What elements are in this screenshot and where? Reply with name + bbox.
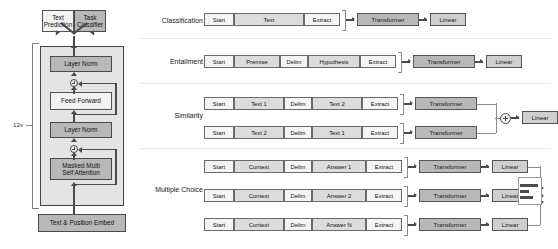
layer-norm-top: Layer Norm — [50, 56, 112, 72]
softmax-bar-1 — [520, 184, 538, 187]
token-start: Start — [204, 160, 234, 173]
seq-to-transformer-arrow — [414, 193, 417, 197]
ln-bottom-output-arrow — [71, 110, 77, 114]
token-start: Start — [204, 218, 234, 231]
section-divider-2 — [140, 83, 551, 84]
seq-to-transformer-arrow — [352, 17, 355, 21]
token-text-2: Text 2 — [234, 126, 284, 139]
token-extract: Extract — [304, 13, 340, 26]
section-label-classification: Classification — [162, 17, 203, 24]
block-output-arrow — [71, 44, 77, 48]
seq-to-transformer-arrow — [410, 130, 413, 134]
linear-block-mc-1: Linear — [492, 160, 528, 173]
text-position-embed-block: Text & Position Embed — [38, 214, 126, 232]
ff-skip-vline — [115, 83, 117, 115]
token-context: Context — [234, 218, 284, 231]
token-answer-1: Answer 1 — [312, 160, 366, 173]
section-divider-1 — [140, 38, 551, 39]
transformer-to-linear-arrow — [486, 193, 489, 197]
transformer-block-similarity-1: Transformer — [415, 97, 477, 110]
masked-multi-self-attention-block: Masked Multi Self Attention — [50, 158, 112, 180]
msa-skip-vline — [115, 149, 117, 185]
text-prediction-head-line1: Text — [52, 14, 64, 21]
seq-to-transformer-arrow — [408, 59, 411, 63]
token-delim: Delim — [284, 126, 312, 139]
token-start: Start — [204, 97, 234, 110]
transformer-block-similarity-2: Transformer — [415, 126, 477, 139]
token-text: Text — [234, 13, 304, 26]
mc-agg-line-1 — [528, 167, 540, 168]
transformer-to-linear-arrow — [480, 59, 483, 63]
msa-line2: Self Attention — [62, 169, 100, 176]
ln-bottom-input-arrow — [71, 138, 77, 142]
ff-skip-top — [80, 83, 116, 85]
token-delim: Delim — [280, 55, 308, 68]
token-answer-2: Answer 2 — [312, 189, 366, 202]
repeat-label: 12x — [13, 121, 23, 128]
softmax-bar-3 — [520, 196, 533, 199]
repeat-bracket-tick — [26, 125, 33, 126]
token-context: Context — [234, 189, 284, 202]
msa-line1: Masked Multi — [62, 162, 100, 169]
layer-norm-bottom: Layer Norm — [50, 122, 112, 138]
linear-block-mc-3: Linear — [492, 218, 528, 231]
token-hypothesis: Hypothesis — [308, 55, 360, 68]
section-label-similarity: Similarity — [175, 112, 203, 119]
token-start: Start — [204, 13, 234, 26]
task-classifier-head-line1: Task — [83, 14, 96, 21]
linear-block-similarity: Linear — [522, 111, 558, 124]
similarity-merge-top-line — [477, 104, 496, 105]
section-label-multiple-choice: Multiple Choice — [155, 186, 203, 193]
section-divider-3 — [140, 148, 551, 149]
token-start: Start — [204, 126, 234, 139]
softmax-bar-2 — [520, 190, 529, 193]
transformer-block-mc-2: Transformer — [419, 189, 481, 202]
similarity-merge-bottom-line — [477, 133, 496, 134]
transformer-to-linear-arrow — [424, 17, 427, 21]
transformer-architecture-panel: Text Prediction Task Classifier 12x Laye… — [0, 0, 140, 249]
linear-block-entailment: Linear — [486, 55, 522, 68]
transformer-block-mc-3: Transformer — [419, 218, 481, 231]
token-extract: Extract — [362, 126, 398, 139]
repeat-bracket — [32, 43, 39, 209]
msa-skip-top — [80, 149, 116, 151]
token-extract: Extract — [366, 189, 402, 202]
transformer-block-classification: Transformer — [357, 13, 419, 26]
ln-bottom-output-line — [73, 114, 75, 122]
msa-skip-bottom — [73, 184, 116, 186]
msa-output-line — [73, 156, 75, 160]
ff-output-line — [73, 90, 75, 94]
msa-output-arrow — [71, 152, 77, 156]
token-start: Start — [204, 189, 234, 202]
token-delim: Delim — [284, 189, 312, 202]
token-answer-n: Answer N — [312, 218, 366, 231]
seq-to-transformer-arrow — [414, 222, 417, 226]
embed-to-block-line — [73, 186, 75, 214]
section-label-entailment: Entailment — [170, 58, 203, 65]
token-extract: Extract — [366, 218, 402, 231]
plus-to-linear-arrow — [516, 115, 519, 119]
transformer-block-entailment: Transformer — [413, 55, 475, 68]
transformer-to-linear-arrow — [486, 222, 489, 226]
ff-output-arrow — [71, 86, 77, 90]
token-premise: Premise — [234, 55, 280, 68]
token-text-1: Text 1 — [312, 126, 362, 139]
mc-agg-line-3 — [528, 225, 540, 226]
similarity-add-node — [500, 113, 511, 124]
linear-block-classification: Linear — [430, 13, 466, 26]
token-start: Start — [204, 55, 234, 68]
embed-to-block-arrow — [71, 182, 77, 186]
token-extract: Extract — [360, 55, 396, 68]
token-context: Context — [234, 160, 284, 173]
msa-skip-arrow — [78, 147, 82, 153]
token-text-1: Text 1 — [234, 97, 284, 110]
token-delim: Delim — [284, 218, 312, 231]
block-output-line — [73, 48, 75, 56]
token-extract: Extract — [362, 97, 398, 110]
ff-skip-bottom — [73, 114, 116, 116]
token-delim: Delim — [284, 160, 312, 173]
token-delim: Delim — [284, 97, 312, 110]
feed-forward-block: Feed Forward — [50, 92, 112, 110]
transformer-block-mc-1: Transformer — [419, 160, 481, 173]
ln-top-input-arrow — [71, 72, 77, 76]
